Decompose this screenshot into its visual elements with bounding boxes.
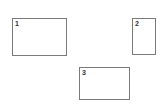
box-2: 2	[132, 18, 156, 55]
box-2-label: 2	[135, 20, 139, 27]
box-1: 1	[12, 18, 67, 56]
box-3: 3	[79, 67, 130, 100]
box-1-label: 1	[15, 20, 19, 27]
box-3-label: 3	[82, 69, 86, 76]
